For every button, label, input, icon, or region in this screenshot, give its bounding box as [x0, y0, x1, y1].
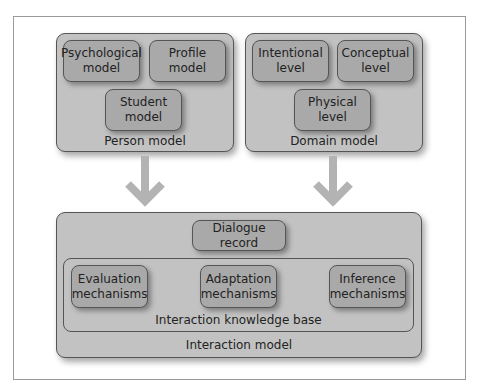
student-model-box: Student model	[105, 89, 182, 131]
person-model-label: Person model	[56, 134, 234, 148]
adaptation-mechanisms-box: Adaptation mechanisms	[200, 265, 277, 308]
physical-level-box: Physical level	[294, 89, 371, 131]
profile-model-box: Profile model	[149, 40, 226, 82]
intentional-level-box: Intentional level	[252, 40, 329, 82]
psychological-model-box: Psychological model	[63, 40, 140, 82]
down-arrow-icon	[124, 156, 166, 208]
interaction-model-label: Interaction model	[56, 338, 422, 352]
conceptual-level-box: Conceptual level	[337, 40, 414, 82]
inference-mechanisms-box: Inference mechanisms	[329, 265, 406, 308]
dialogue-record-box: Dialogue record	[192, 220, 286, 251]
evaluation-mechanisms-box: Evaluation mechanisms	[71, 265, 148, 308]
domain-model-label: Domain model	[245, 134, 423, 148]
down-arrow-icon	[312, 156, 354, 208]
interaction-knowledge-base-label: Interaction knowledge base	[63, 313, 414, 327]
